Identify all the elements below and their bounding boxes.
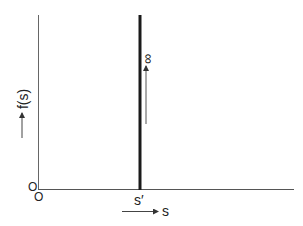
infinity-label: ∞ bbox=[140, 53, 154, 66]
y-axis-label: f(s) bbox=[16, 85, 30, 113]
origin-label-x: O bbox=[34, 191, 43, 203]
spike-position-label: s′ bbox=[134, 193, 144, 207]
x-axis-label: s bbox=[162, 204, 169, 218]
delta-function-diagram bbox=[0, 0, 303, 226]
